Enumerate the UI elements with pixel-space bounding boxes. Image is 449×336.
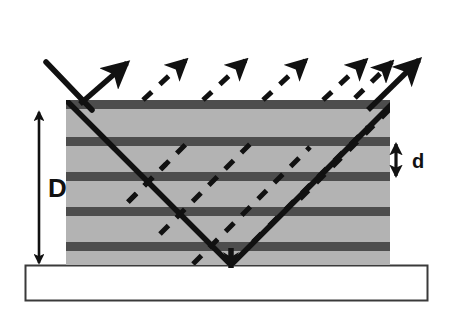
layer-band bbox=[66, 172, 390, 181]
label-layer-period: d bbox=[412, 150, 424, 172]
layer-band bbox=[66, 207, 390, 216]
figure-root: D d bbox=[0, 0, 449, 336]
layer-band bbox=[66, 242, 390, 251]
layer-band bbox=[66, 100, 390, 109]
label-total-thickness: D bbox=[48, 173, 67, 203]
multilayer-slab bbox=[66, 100, 390, 265]
layer-band bbox=[66, 137, 390, 146]
multilayer-bragg-diagram: D d bbox=[0, 0, 449, 336]
substrate-plate bbox=[26, 266, 428, 301]
slab-matrix bbox=[66, 100, 390, 265]
